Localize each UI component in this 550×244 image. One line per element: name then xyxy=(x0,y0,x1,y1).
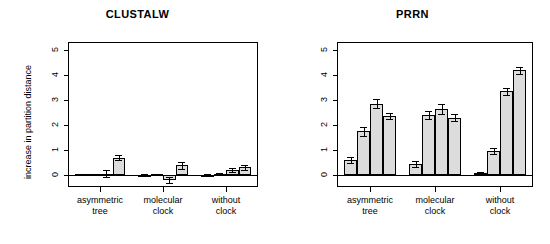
x-axis-group-label: withoutclock xyxy=(460,195,540,217)
x-axis-group-label: withoutclock xyxy=(186,195,266,217)
error-bar-cap xyxy=(451,121,458,122)
error-bar-cap xyxy=(503,95,510,96)
error-bar-stem xyxy=(182,162,183,169)
error-bar-stem xyxy=(364,127,365,136)
x-axis-tick xyxy=(163,187,164,192)
bar xyxy=(357,131,370,175)
error-bar-cap xyxy=(347,163,354,164)
y-axis-tick xyxy=(64,125,69,126)
x-axis-group-label-line2: clock xyxy=(186,206,266,217)
error-bar-cap xyxy=(204,175,211,176)
x-axis-group-label-line1: without xyxy=(460,195,540,206)
error-bar-stem xyxy=(429,111,430,119)
y-axis-tick-label: 2 xyxy=(320,117,329,133)
error-bar-cap xyxy=(516,67,523,68)
bar xyxy=(513,70,526,174)
error-bar-cap xyxy=(451,114,458,115)
x-axis-tick xyxy=(500,187,501,192)
plot-area-clustalw: 012345asymmetrictreemolecularclockwithou… xyxy=(68,42,258,187)
error-bar-cap xyxy=(141,175,148,176)
error-bar-stem xyxy=(377,99,378,108)
error-bar-cap xyxy=(178,162,185,163)
error-bar-cap xyxy=(241,165,248,166)
y-axis-tick xyxy=(64,50,69,51)
error-bar-stem xyxy=(442,104,443,114)
error-bar-cap xyxy=(516,74,523,75)
error-bar-cap xyxy=(373,99,380,100)
y-axis-tick-label: 5 xyxy=(320,42,329,58)
error-bar-stem xyxy=(106,170,107,177)
error-bar-cap xyxy=(360,127,367,128)
x-axis-tick xyxy=(100,187,101,192)
error-bar-cap xyxy=(373,108,380,109)
error-bar-cap xyxy=(241,170,248,171)
error-bar-cap xyxy=(166,177,173,178)
error-bar-cap xyxy=(360,136,367,137)
error-bar-cap xyxy=(178,169,185,170)
bars-layer-clustalw: 012345asymmetrictreemolecularclockwithou… xyxy=(69,43,257,186)
error-bar-cap xyxy=(216,175,223,176)
zero-baseline xyxy=(338,175,532,176)
error-bar-cap xyxy=(103,170,110,171)
y-axis-tick-label: 4 xyxy=(320,67,329,83)
error-bar-cap xyxy=(166,183,173,184)
figure-container: CLUSTALW increase in partition distance … xyxy=(0,0,550,244)
error-bar-cap xyxy=(103,177,110,178)
panel-prrn: PRRN 012345asymmetrictreemolecularclockw… xyxy=(275,0,550,244)
y-axis-tick-label: 2 xyxy=(51,117,60,133)
error-bar-cap xyxy=(412,167,419,168)
error-bar-cap xyxy=(438,104,445,105)
bars-layer-prrn: 012345asymmetrictreemolecularclockwithou… xyxy=(338,43,532,186)
error-bar-cap xyxy=(90,175,97,176)
y-axis-tick-label: 3 xyxy=(51,92,60,108)
y-axis-tick-label: 1 xyxy=(320,141,329,157)
y-axis-tick xyxy=(333,50,338,51)
error-bar-cap xyxy=(425,111,432,112)
error-bar-cap xyxy=(78,175,85,176)
y-axis-tick-label: 0 xyxy=(320,166,329,182)
y-axis-tick-label: 3 xyxy=(320,92,329,108)
y-axis-tick xyxy=(333,100,338,101)
bar xyxy=(383,116,396,174)
x-axis-tick xyxy=(226,187,227,192)
y-axis-tick xyxy=(64,75,69,76)
panel-clustalw: CLUSTALW increase in partition distance … xyxy=(0,0,275,244)
y-axis-tick xyxy=(333,125,338,126)
error-bar-stem xyxy=(507,88,508,96)
error-bar-cap xyxy=(412,161,419,162)
error-bar-cap xyxy=(386,113,393,114)
y-axis-tick xyxy=(64,100,69,101)
y-axis-tick-label: 0 xyxy=(51,166,60,182)
error-bar-cap xyxy=(229,172,236,173)
y-axis-tick xyxy=(333,150,338,151)
x-axis-tick xyxy=(370,187,371,192)
bar xyxy=(500,91,513,174)
error-bar-cap xyxy=(477,174,484,175)
bar xyxy=(422,115,435,175)
error-bar-cap xyxy=(153,175,160,176)
y-axis-tick xyxy=(333,75,338,76)
bar xyxy=(448,118,461,175)
error-bar-cap xyxy=(115,155,122,156)
y-axis-label: increase in partition distance xyxy=(23,42,33,202)
plot-area-prrn: 012345asymmetrictreemolecularclockwithou… xyxy=(337,42,533,187)
error-bar-cap xyxy=(229,168,236,169)
error-bar-cap xyxy=(503,88,510,89)
error-bar-cap xyxy=(347,157,354,158)
error-bar-cap xyxy=(438,114,445,115)
bar xyxy=(435,109,448,175)
y-axis-tick-label: 4 xyxy=(51,67,60,83)
panel-title-prrn: PRRN xyxy=(275,8,550,20)
y-axis-tick-label: 5 xyxy=(51,42,60,58)
error-bar-cap xyxy=(477,172,484,173)
x-axis-tick xyxy=(435,187,436,192)
y-axis-tick xyxy=(64,150,69,151)
error-bar-cap xyxy=(490,154,497,155)
error-bar-cap xyxy=(490,148,497,149)
x-axis-group-label-line2: clock xyxy=(460,206,540,217)
x-axis-group-label-line1: without xyxy=(186,195,266,206)
y-axis-tick-label: 1 xyxy=(51,141,60,157)
bar xyxy=(370,104,383,175)
error-bar-cap xyxy=(425,119,432,120)
panel-title-clustalw: CLUSTALW xyxy=(0,8,275,20)
